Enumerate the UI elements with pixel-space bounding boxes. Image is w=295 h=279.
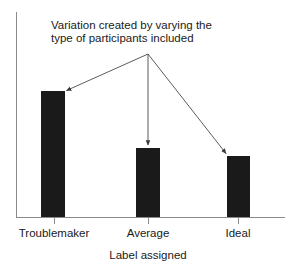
x-label-average: Average: [127, 227, 170, 240]
annotation-line-1: Variation created by varying the: [51, 19, 251, 32]
x-axis-tick-average: [148, 218, 149, 224]
annotation-callout-text: Variation created by varying the type of…: [51, 19, 251, 44]
arrow-to-ideal: [148, 54, 226, 154]
bar-troublemaker: [41, 91, 65, 217]
bar-average: [136, 148, 160, 217]
y-axis-line: [16, 12, 17, 218]
annotation-line-2: type of participants included: [51, 32, 251, 45]
x-axis-line: [16, 217, 285, 218]
bar-ideal: [227, 156, 250, 217]
x-axis-tick-ideal: [238, 218, 239, 224]
x-label-troublemaker: Troublemaker: [19, 227, 90, 240]
x-axis-title: Label assigned: [109, 249, 186, 262]
arrow-to-troublemaker: [67, 54, 149, 91]
x-label-ideal: Ideal: [226, 227, 251, 240]
bar-chart-figure: Variation created by varying the type of…: [0, 0, 295, 279]
x-axis-tick-troublemaker: [54, 218, 55, 224]
